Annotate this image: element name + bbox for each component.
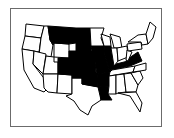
state-florida (118, 92, 142, 112)
state-iowa (91, 46, 105, 56)
state-new-england (146, 22, 156, 44)
state-michigan (110, 34, 122, 48)
state-wyoming (54, 43, 69, 58)
state-pennsylvania (127, 42, 142, 51)
state-north-dakota (76, 28, 91, 40)
state-montana (48, 26, 76, 45)
state-nebraska (69, 51, 95, 62)
us-map (0, 0, 174, 138)
state-arkansas (97, 72, 110, 87)
state-mississippi (108, 75, 116, 94)
state-south-dakota (76, 40, 91, 51)
state-new-mexico (57, 74, 72, 94)
state-kansas (72, 62, 96, 73)
state-utah (43, 56, 58, 74)
